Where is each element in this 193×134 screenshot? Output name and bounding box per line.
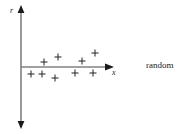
- data-point-marker: [39, 71, 46, 78]
- y-axis-arrow-down-icon: [18, 121, 25, 129]
- figure-caption: random: [146, 61, 174, 70]
- data-point-marker: [52, 75, 59, 82]
- data-point-marker: [55, 54, 62, 61]
- figure-container: r x random: [0, 0, 193, 134]
- data-point-marker: [41, 59, 48, 66]
- data-point-marker: [79, 58, 86, 65]
- y-axis-label: r: [10, 7, 13, 15]
- data-point-marker: [90, 70, 97, 77]
- data-point-marker: [28, 71, 35, 78]
- data-point-marker: [92, 50, 99, 57]
- data-point-group: [28, 50, 99, 82]
- data-point-marker: [72, 70, 79, 77]
- scatter-plot: [0, 0, 140, 134]
- x-axis-label: x: [112, 69, 116, 77]
- y-axis-arrow-up-icon: [18, 5, 25, 13]
- plot-svg: [0, 0, 140, 134]
